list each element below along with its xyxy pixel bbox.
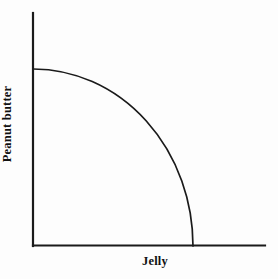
y-axis-label: Peanut butter: [0, 82, 14, 166]
x-axis-label: Jelly: [0, 254, 278, 269]
ppf-curve: [34, 69, 194, 246]
chart-figure: Peanut butter Jelly: [0, 0, 278, 279]
y-axis-label-text: Peanut butter: [0, 86, 15, 163]
ppf-chart-canvas: [0, 0, 278, 279]
